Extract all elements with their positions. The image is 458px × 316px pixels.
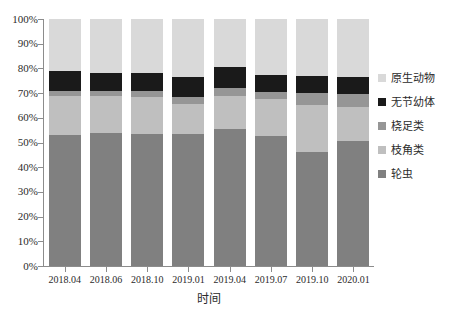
bar-segment[interactable]: [172, 77, 204, 97]
y-tick-mark: [38, 44, 43, 45]
bar-segment[interactable]: [255, 19, 287, 75]
y-tick-label: 40%: [18, 162, 38, 173]
legend-swatch-icon: [378, 170, 386, 178]
x-axis-line: [43, 266, 374, 267]
bar-2019.10[interactable]: [296, 19, 328, 266]
legend-label: 原生动物: [391, 72, 435, 84]
bar-2018.04[interactable]: [49, 19, 81, 266]
bar-segment[interactable]: [90, 133, 122, 266]
legend-item-无节幼体[interactable]: 无节幼体: [378, 90, 458, 114]
x-tick-mark: [106, 267, 107, 272]
bar-segment[interactable]: [214, 129, 246, 266]
x-tick-mark: [312, 267, 313, 272]
legend-label: 轮虫: [391, 168, 413, 180]
bar-segment[interactable]: [172, 97, 204, 104]
bar-segment[interactable]: [337, 77, 369, 94]
y-tick-mark: [38, 93, 43, 94]
bar-segment[interactable]: [49, 19, 81, 71]
x-axis: 2018.042018.062018.102019.012019.042019.…: [44, 274, 374, 290]
bar-segment[interactable]: [131, 73, 163, 90]
bar-segment[interactable]: [296, 76, 328, 93]
bar-segment[interactable]: [214, 88, 246, 95]
legend-swatch-icon: [378, 146, 386, 154]
bar-segment[interactable]: [131, 19, 163, 73]
bar-segment[interactable]: [296, 19, 328, 76]
legend-label: 无节幼体: [391, 96, 435, 108]
y-tick-label: 20%: [18, 211, 38, 222]
bar-segment[interactable]: [90, 19, 122, 73]
y-tick-label: 50%: [18, 137, 38, 148]
y-tick-mark: [38, 143, 43, 144]
bar-segment[interactable]: [255, 136, 287, 266]
y-tick-label: 100%: [12, 14, 38, 25]
legend-item-原生动物[interactable]: 原生动物: [378, 66, 458, 90]
bar-segment[interactable]: [172, 104, 204, 134]
y-tick-label: 30%: [18, 186, 38, 197]
x-tick-label: 2019.07: [250, 274, 291, 286]
legend-item-桡足类[interactable]: 桡足类: [378, 114, 458, 138]
x-tick-label: 2019.01: [168, 274, 209, 286]
legend-item-轮虫[interactable]: 轮虫: [378, 162, 458, 186]
chart-legend: 原生动物无节幼体桡足类枝角类轮虫: [378, 66, 458, 186]
x-tick-label: 2018.06: [85, 274, 126, 286]
legend-swatch-icon: [378, 98, 386, 106]
y-tick-label: 90%: [18, 38, 38, 49]
bar-segment[interactable]: [214, 67, 246, 88]
y-tick-label: 80%: [18, 63, 38, 74]
x-tick-mark: [230, 267, 231, 272]
bar-segment[interactable]: [90, 73, 122, 90]
bar-segment[interactable]: [49, 135, 81, 266]
y-tick-label: 60%: [18, 112, 38, 123]
legend-swatch-icon: [378, 74, 386, 82]
y-tick-mark: [38, 118, 43, 119]
bar-segment[interactable]: [131, 91, 163, 97]
x-tick-mark: [147, 267, 148, 272]
legend-item-枝角类[interactable]: 枝角类: [378, 138, 458, 162]
x-tick-mark: [271, 267, 272, 272]
bar-segment[interactable]: [337, 94, 369, 106]
x-tick-mark: [188, 267, 189, 272]
y-axis: 0%10%20%30%40%50%60%70%80%90%100%: [0, 0, 38, 290]
bar-2018.10[interactable]: [131, 19, 163, 266]
bar-segment[interactable]: [90, 91, 122, 96]
legend-label: 枝角类: [391, 144, 424, 156]
bar-segment[interactable]: [337, 107, 369, 142]
bar-segment[interactable]: [49, 96, 81, 136]
y-tick-mark: [38, 217, 43, 218]
bar-segment[interactable]: [131, 97, 163, 134]
x-axis-title: 时间: [44, 292, 374, 306]
bar-2019.01[interactable]: [172, 19, 204, 266]
bar-2018.06[interactable]: [90, 19, 122, 266]
bar-2019.04[interactable]: [214, 19, 246, 266]
legend-label: 桡足类: [391, 120, 424, 132]
bar-2020.01[interactable]: [337, 19, 369, 266]
y-tick-mark: [38, 167, 43, 168]
bar-segment[interactable]: [296, 93, 328, 105]
bar-segment[interactable]: [214, 19, 246, 67]
y-tick-label: 10%: [18, 236, 38, 247]
bar-segment[interactable]: [49, 71, 81, 91]
bar-segment[interactable]: [337, 141, 369, 266]
bar-segment[interactable]: [296, 105, 328, 152]
bar-segment[interactable]: [255, 92, 287, 99]
bar-segment[interactable]: [172, 19, 204, 77]
bar-segment[interactable]: [90, 96, 122, 133]
y-tick-mark: [38, 19, 43, 20]
x-tick-label: 2018.04: [44, 274, 85, 286]
x-tick-label: 2019.04: [209, 274, 250, 286]
bar-segment[interactable]: [337, 19, 369, 77]
bar-segment[interactable]: [49, 91, 81, 96]
x-tick-label: 2019.10: [292, 274, 333, 286]
y-tick-mark: [38, 68, 43, 69]
bar-segment[interactable]: [255, 75, 287, 92]
bar-segment[interactable]: [131, 134, 163, 266]
bar-2019.07[interactable]: [255, 19, 287, 266]
stacked-bar-chart: 0%10%20%30%40%50%60%70%80%90%100% 2018.0…: [0, 0, 458, 316]
legend-swatch-icon: [378, 122, 386, 130]
bar-segment[interactable]: [214, 96, 246, 129]
bar-segment[interactable]: [172, 134, 204, 266]
bar-segment[interactable]: [296, 152, 328, 266]
x-tick-label: 2020.01: [333, 274, 374, 286]
plot-area: [44, 19, 374, 266]
bar-segment[interactable]: [255, 99, 287, 136]
